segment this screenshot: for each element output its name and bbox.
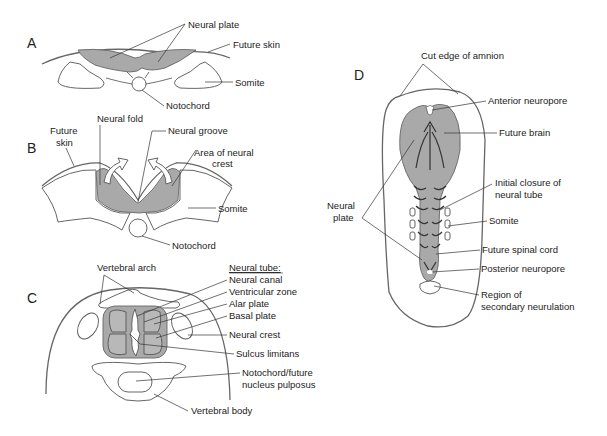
label-somite-b: Somite xyxy=(218,203,248,214)
leader-somite-d xyxy=(448,221,487,226)
label-future-spinal-cord-d: Future spinal cord xyxy=(482,244,558,255)
alar-plate-left-c xyxy=(109,310,126,332)
arrow-a3 xyxy=(127,72,133,78)
label-sulcus-limitans-c: Sulcus limitans xyxy=(236,348,300,359)
label-neural-groove-b: Neural groove xyxy=(168,125,228,136)
panel-a-letter: A xyxy=(27,35,37,51)
vertebral-arch-c xyxy=(99,289,180,308)
panel-b: B Neural fold Neural groove Future skin … xyxy=(27,113,254,251)
label-skin-b: skin xyxy=(56,137,73,148)
leader-notochord-a xyxy=(142,90,164,106)
leader-secondary-neurulation-d xyxy=(434,286,479,295)
neural-crest-left-c xyxy=(73,309,103,342)
label-alar-plate-c: Alar plate xyxy=(229,298,269,309)
panel-a: A Neural plate Future skin Somite Notoch… xyxy=(27,19,280,111)
leader-future-skin-b xyxy=(66,148,74,166)
neural-plate-a xyxy=(78,49,196,72)
label-neural-crest-c: Neural crest xyxy=(229,329,281,340)
label-nucleus-pulposus-c: nucleus pulposus xyxy=(242,379,316,390)
label-vertebral-body-c: Vertebral body xyxy=(191,405,253,416)
label-initial-closure-d: Initial closure of xyxy=(495,177,561,188)
label-basal-plate-c: Basal plate xyxy=(229,310,276,321)
panel-d: D xyxy=(327,50,574,327)
label-secondary-neurulation-d: secondary neurulation xyxy=(481,301,574,312)
secondary-neurulation-region-d xyxy=(420,281,441,294)
label-future-brain-d: Future brain xyxy=(499,127,550,138)
neurulation-diagram: A Neural plate Future skin Somite Notoch… xyxy=(0,0,607,436)
label-neural-tube-d: neural tube xyxy=(495,189,543,200)
leader-initial-closure-d xyxy=(440,184,492,210)
label-crest-b: crest xyxy=(212,158,233,169)
label-neural-tube-c: Neural tube: xyxy=(229,262,281,273)
leader-cut-edge-d xyxy=(400,64,458,96)
label-neural-canal-c: Neural canal xyxy=(229,274,282,285)
label-future-b: Future xyxy=(50,125,77,136)
label-ventricular-zone-c: Ventricular zone xyxy=(229,286,297,297)
label-neural-plate-a: Neural plate xyxy=(188,19,239,30)
panel-c: C Vertebral arch Neural tube: Neural can… xyxy=(27,262,316,416)
notochord-b xyxy=(129,219,147,237)
label-plate-d: plate xyxy=(333,212,354,223)
leader-future-skin-a xyxy=(208,44,230,52)
panel-b-letter: B xyxy=(27,140,36,156)
leader-vertebral-body-c xyxy=(154,394,188,411)
arrow-a4 xyxy=(145,72,149,78)
label-future-skin-a: Future skin xyxy=(233,39,280,50)
label-posterior-neuropore-d: Posterior neuropore xyxy=(481,263,565,274)
label-notochord-b: Notochord xyxy=(172,240,216,251)
basal-plate-left-c xyxy=(108,334,126,355)
label-neural-fold-b: Neural fold xyxy=(97,113,143,124)
label-somite-a: Somite xyxy=(235,77,265,88)
label-somite-d: Somite xyxy=(489,215,519,226)
notochord-c xyxy=(118,372,152,392)
panel-d-letter: D xyxy=(354,67,364,83)
leader-spinal-cord-d xyxy=(436,250,480,254)
label-neural-d: Neural xyxy=(327,200,355,211)
somite-right-a xyxy=(174,62,222,88)
leader-posterior-neuropore-d xyxy=(432,269,479,272)
label-region-of-d: Region of xyxy=(481,289,522,300)
neural-crest-right-c xyxy=(167,309,197,342)
arrow-a2 xyxy=(146,78,172,84)
leader-notochord-b xyxy=(142,236,170,245)
label-anterior-neuropore-d: Anterior neuropore xyxy=(488,95,567,106)
label-notochord-future-c: Notochord/future xyxy=(242,367,313,378)
panel-c-letter: C xyxy=(27,290,37,306)
label-area-neural-b: Area of neural xyxy=(194,147,254,158)
label-notochord-a: Notochord xyxy=(166,100,210,111)
arrow-a1 xyxy=(106,78,132,84)
label-cut-edge-amnion-d: Cut edge of amnion xyxy=(421,50,504,61)
label-vertebral-arch-c: Vertebral arch xyxy=(97,262,156,273)
notochord-a xyxy=(132,77,146,91)
